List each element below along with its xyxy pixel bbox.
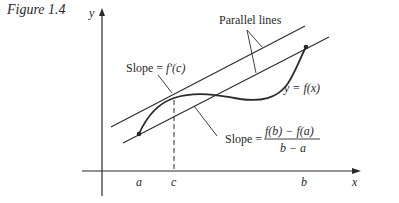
tick-label-b: b bbox=[301, 175, 307, 189]
secant-slope-denominator: b − a bbox=[280, 141, 306, 155]
axes bbox=[82, 12, 356, 196]
tick-label-a: a bbox=[136, 175, 142, 189]
secant-slope-prefix: Slope = bbox=[225, 132, 262, 146]
tick-label-c: c bbox=[171, 175, 177, 189]
point-a bbox=[137, 132, 142, 137]
tangent-line bbox=[111, 26, 305, 127]
leader-parallel-upper bbox=[247, 30, 262, 47]
y-axis-label: y bbox=[88, 6, 95, 20]
tangent-slope-label: Slope = f′(c) bbox=[126, 61, 185, 75]
leader-secant-slope bbox=[194, 106, 217, 136]
x-axis-label: x bbox=[351, 175, 358, 189]
tangent-slope-prefix: Slope = bbox=[126, 61, 166, 75]
curve-label: y = f(x) bbox=[283, 81, 320, 95]
parallel-lines-label: Parallel lines bbox=[219, 13, 282, 27]
x-axis-arrow-icon bbox=[352, 168, 361, 174]
leader-tangent-slope bbox=[158, 75, 172, 93]
point-b bbox=[304, 45, 309, 50]
secant-slope-numerator: f(b) − f(a) bbox=[265, 124, 314, 138]
tangent-slope-expr: f′(c) bbox=[166, 61, 185, 75]
mean-value-theorem-diagram: y x a c b Parallel lines Slope = f′(c) y… bbox=[0, 0, 399, 203]
leader-parallel-lower bbox=[247, 30, 256, 73]
y-axis-arrow-icon bbox=[99, 8, 105, 16]
